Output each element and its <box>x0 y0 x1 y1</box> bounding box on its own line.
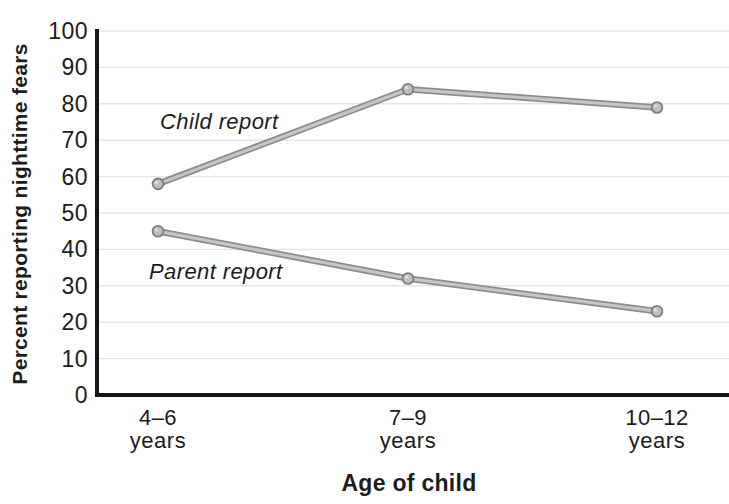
y-tick-label: 60 <box>34 164 88 191</box>
data-point-highlight <box>155 181 159 185</box>
y-tick-label: 50 <box>34 200 88 227</box>
x-tick-suffix: years <box>587 429 727 452</box>
y-tick-label: 70 <box>34 127 88 154</box>
data-point-highlight <box>654 308 658 312</box>
y-tick-label: 10 <box>34 346 88 373</box>
x-tick-range: 10–12 <box>587 406 727 429</box>
y-tick-label: 100 <box>34 18 88 45</box>
x-tick-range: 4–6 <box>88 406 228 429</box>
data-point-highlight <box>654 104 658 108</box>
x-tick-range: 7–9 <box>338 406 478 429</box>
x-tick-suffix: years <box>338 429 478 452</box>
y-tick-label: 80 <box>34 91 88 118</box>
x-tick-suffix: years <box>88 429 228 452</box>
y-tick-label: 30 <box>34 273 88 300</box>
y-axis-title: Percent reporting nighttime fears <box>8 43 32 384</box>
data-point-marker <box>403 273 414 284</box>
data-point-highlight <box>155 228 159 232</box>
data-point-highlight <box>405 86 409 90</box>
data-point-highlight <box>405 275 409 279</box>
data-point-marker <box>652 102 663 113</box>
x-tick-label: 7–9years <box>338 406 478 452</box>
data-point-marker <box>153 178 164 189</box>
data-point-marker <box>153 226 164 237</box>
x-tick-label: 4–6years <box>88 406 228 452</box>
x-axis-title: Age of child <box>299 470 519 497</box>
x-tick-label: 10–12years <box>587 406 727 452</box>
figure: Percent reporting nighttime fears Child … <box>0 0 729 504</box>
data-point-marker <box>403 84 414 95</box>
y-tick-label: 20 <box>34 309 88 336</box>
y-tick-label: 40 <box>34 236 88 263</box>
data-point-marker <box>652 306 663 317</box>
y-tick-label: 0 <box>34 382 88 409</box>
series-label-parent-report: Parent report <box>149 259 283 285</box>
y-tick-label: 90 <box>34 54 88 81</box>
series-label-child-report: Child report <box>160 109 279 135</box>
